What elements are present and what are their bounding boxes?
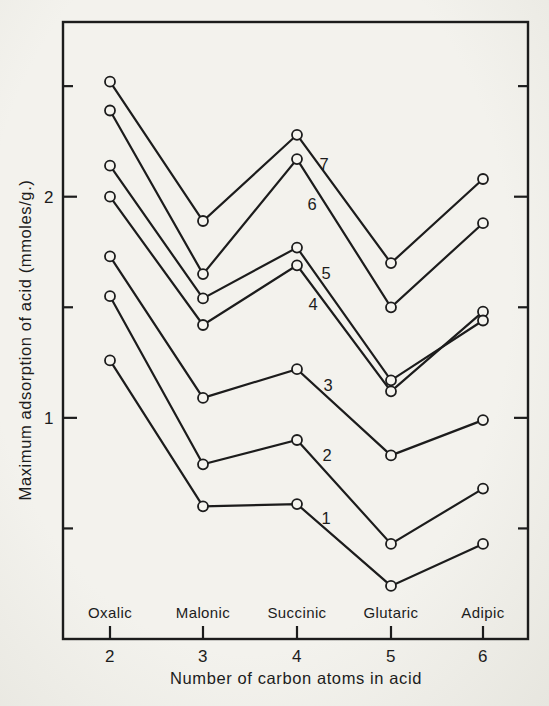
data-point-series-6 <box>478 218 488 228</box>
data-point-series-5 <box>292 243 302 253</box>
data-point-series-1 <box>386 581 396 591</box>
data-point-series-4 <box>105 192 115 202</box>
data-point-series-3 <box>292 364 302 374</box>
data-point-series-3 <box>105 251 115 261</box>
data-point-series-2 <box>292 435 302 445</box>
y-axis-title: Maximum adsorption of acid (mmoles/g.) <box>16 180 34 501</box>
data-point-series-6 <box>386 302 396 312</box>
data-point-series-7 <box>105 77 115 87</box>
chart-plot-area: 12Oxalic2Malonic3Succinic4Glutaric5Adipi… <box>44 22 528 666</box>
data-point-series-6 <box>105 106 115 116</box>
series-label-2: 2 <box>322 446 331 464</box>
data-point-series-2 <box>105 291 115 301</box>
series-line-1 <box>110 360 483 586</box>
data-point-series-5 <box>105 161 115 171</box>
data-point-series-1 <box>478 539 488 549</box>
data-point-series-3 <box>198 393 208 403</box>
data-point-series-1 <box>198 501 208 511</box>
x-axis-title: Number of carbon atoms in acid <box>170 669 422 687</box>
data-point-series-4 <box>292 260 302 270</box>
data-point-series-3 <box>478 415 488 425</box>
series-label-4: 4 <box>308 295 317 313</box>
category-label: Oxalic <box>88 604 132 621</box>
data-point-series-1 <box>292 499 302 509</box>
category-label: Succinic <box>267 604 326 621</box>
data-point-series-5 <box>386 375 396 385</box>
data-point-series-3 <box>386 450 396 460</box>
x-tick-label: 6 <box>478 647 488 666</box>
series-label-6: 6 <box>307 195 316 213</box>
data-point-series-6 <box>292 154 302 164</box>
data-point-series-7 <box>198 216 208 226</box>
x-tick-label: 4 <box>292 647 302 666</box>
x-tick-label: 3 <box>198 647 208 666</box>
category-label: Glutaric <box>364 604 419 621</box>
data-point-series-7 <box>386 258 396 268</box>
series-label-3: 3 <box>323 376 332 394</box>
category-label: Malonic <box>176 604 231 621</box>
data-point-series-2 <box>386 539 396 549</box>
x-tick-label: 5 <box>386 647 396 666</box>
series-label-7: 7 <box>319 155 328 173</box>
data-point-series-4 <box>386 386 396 396</box>
data-point-series-1 <box>105 355 115 365</box>
data-point-series-5 <box>198 293 208 303</box>
data-point-series-7 <box>292 130 302 140</box>
adsorption-line-chart: 12Oxalic2Malonic3Succinic4Glutaric5Adipi… <box>0 0 549 706</box>
series-line-7 <box>110 82 483 263</box>
data-point-series-4 <box>198 320 208 330</box>
x-tick-label: 2 <box>105 647 115 666</box>
data-point-series-2 <box>198 459 208 469</box>
data-point-series-5 <box>478 316 488 326</box>
y-tick-label: 2 <box>44 188 54 207</box>
scanned-figure-page: 12Oxalic2Malonic3Succinic4Glutaric5Adipi… <box>0 0 549 706</box>
series-line-4 <box>110 197 483 392</box>
data-point-series-7 <box>478 174 488 184</box>
series-label-5: 5 <box>321 264 330 282</box>
series-label-1: 1 <box>321 509 330 527</box>
data-point-series-2 <box>478 484 488 494</box>
y-tick-label: 1 <box>44 409 54 428</box>
category-label: Adipic <box>461 604 504 621</box>
data-point-series-6 <box>198 269 208 279</box>
